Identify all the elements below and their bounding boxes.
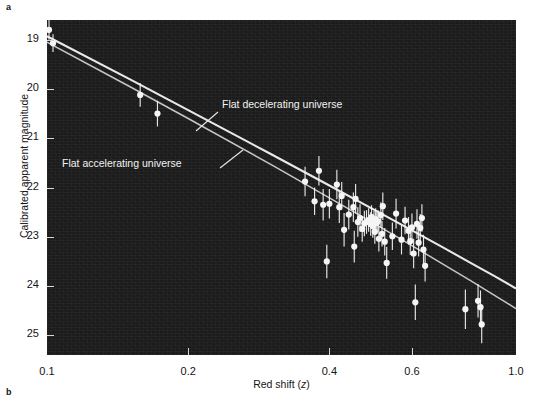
leader-line-1 — [220, 150, 243, 168]
data-point — [334, 181, 340, 187]
x-tick-label: 0.6 — [395, 365, 429, 377]
data-point — [316, 168, 322, 174]
y-axis-title: Calibrated apparent magnitude — [18, 56, 30, 276]
x-tick-label: 1.0 — [499, 365, 533, 377]
model-curve-accelerating — [47, 42, 516, 309]
supernova-data-points — [47, 20, 485, 343]
data-point — [380, 203, 386, 209]
data-point — [341, 227, 347, 233]
data-point — [384, 260, 390, 266]
data-point — [326, 201, 332, 207]
data-point — [320, 202, 326, 208]
data-point — [409, 224, 415, 230]
data-point — [382, 239, 388, 245]
data-point — [346, 212, 352, 218]
x-tick-label: 0.4 — [312, 365, 346, 377]
data-point — [351, 244, 357, 250]
data-point — [419, 215, 425, 221]
hubble-diagram-plot-area: Flat decelerating universe Flat accelera… — [47, 20, 516, 355]
data-point — [324, 258, 330, 264]
data-point — [477, 304, 483, 310]
x-tick-mark — [329, 348, 330, 355]
data-point — [339, 193, 345, 199]
data-point — [479, 321, 485, 327]
data-point — [412, 299, 418, 305]
y-tick-label: 25 — [13, 327, 39, 339]
data-point — [50, 40, 56, 46]
plot-graphics — [47, 20, 516, 355]
x-tick-mark — [188, 348, 189, 355]
x-tick-label: 0.1 — [30, 365, 64, 377]
data-point — [393, 211, 399, 217]
y-tick-mark — [47, 237, 54, 238]
annotation-flat-decelerating-universe: Flat decelerating universe — [222, 98, 342, 110]
y-tick-mark — [47, 138, 54, 139]
y-tick-mark — [47, 40, 54, 41]
data-point — [353, 196, 359, 202]
annotation-leader-lines — [196, 112, 243, 168]
panel-label-b: b — [6, 387, 12, 397]
y-tick-mark — [47, 188, 54, 189]
data-point — [47, 27, 52, 33]
x-axis-title: Red shift (z) — [47, 378, 516, 390]
data-point — [422, 263, 428, 269]
x-tick-label: 0.2 — [171, 365, 205, 377]
x-tick-mark — [412, 348, 413, 355]
data-point — [375, 218, 381, 224]
y-tick-mark — [47, 286, 54, 287]
data-point — [302, 178, 308, 184]
figure-panel-a: a b Flat decelerating universe Flat acce… — [0, 0, 534, 406]
data-point — [389, 233, 395, 239]
model-curves — [47, 36, 516, 308]
y-tick-label: 24 — [13, 278, 39, 290]
annotation-flat-accelerating-universe: Flat accelerating universe — [62, 157, 182, 169]
y-tick-mark — [47, 89, 54, 90]
data-point — [462, 306, 468, 312]
x-axis-title-text: Red shift (z) — [253, 378, 310, 390]
y-tick-mark — [47, 335, 54, 336]
data-point — [311, 198, 317, 204]
data-point — [154, 111, 160, 117]
data-point — [137, 92, 143, 98]
data-point — [411, 250, 417, 256]
data-point — [402, 217, 408, 223]
panel-label-a: a — [6, 2, 11, 12]
y-tick-label: 19 — [13, 32, 39, 44]
data-point — [398, 237, 404, 243]
